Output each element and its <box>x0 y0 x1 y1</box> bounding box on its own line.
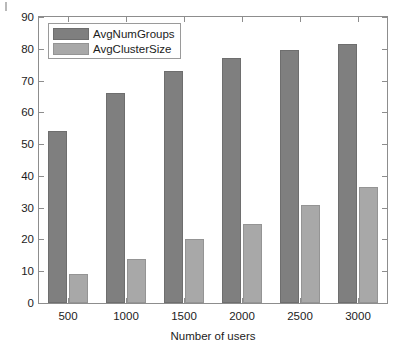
y-tick-right-10 <box>382 271 387 272</box>
chart-legend[interactable]: AvgNumGroups AvgClusterSize <box>48 23 181 59</box>
legend-item-avgnumgroups[interactable]: AvgNumGroups <box>53 27 175 40</box>
bar-1500-avgnumgroups <box>164 71 183 303</box>
y-tick-right-70 <box>382 81 387 82</box>
bar-2000-avgnumgroups <box>222 58 241 303</box>
x-tick-top-3000 <box>358 17 359 22</box>
y-tick-label-60: 60 <box>2 106 34 118</box>
y-tick-30 <box>39 208 44 209</box>
bar-2500-avgclustersize <box>301 205 320 304</box>
y-tick-0 <box>39 303 44 304</box>
x-tick-top-2000 <box>242 17 243 22</box>
y-tick-label-80: 80 <box>2 43 34 55</box>
x-tick-top-1500 <box>184 17 185 22</box>
bar-1000-avgnumgroups <box>106 93 125 303</box>
y-tick-60 <box>39 112 44 113</box>
x-axis-title: Number of users <box>38 330 388 342</box>
y-tick-label-70: 70 <box>2 75 34 87</box>
bar-3000-avgclustersize <box>359 187 378 303</box>
bar-1500-avgclustersize <box>185 239 204 303</box>
y-tick-70 <box>39 81 44 82</box>
y-tick-right-60 <box>382 112 387 113</box>
y-tick-label-30: 30 <box>2 202 34 214</box>
legend-swatch-icon-avgclustersize <box>53 43 89 55</box>
y-tick-label-40: 40 <box>2 170 34 182</box>
x-tick-label-1500: 1500 <box>154 310 214 322</box>
legend-label-avgclustersize: AvgClusterSize <box>93 43 171 55</box>
y-tick-10 <box>39 271 44 272</box>
y-tick-50 <box>39 144 44 145</box>
y-tick-right-80 <box>382 49 387 50</box>
y-tick-90 <box>39 17 44 18</box>
y-tick-80 <box>39 49 44 50</box>
x-tick-label-3000: 3000 <box>328 310 388 322</box>
x-tick-label-1000: 1000 <box>96 310 156 322</box>
bar-2000-avgclustersize <box>243 224 262 303</box>
x-tick-label-2500: 2500 <box>270 310 330 322</box>
y-tick-label-50: 50 <box>2 138 34 150</box>
x-tick-label-500: 500 <box>38 310 98 322</box>
y-tick-right-90 <box>382 17 387 18</box>
bar-1000-avgclustersize <box>127 259 146 303</box>
bar-500-avgclustersize <box>69 274 88 303</box>
y-tick-right-40 <box>382 176 387 177</box>
bar-3000-avgnumgroups <box>338 44 357 303</box>
y-tick-right-20 <box>382 239 387 240</box>
x-tick-top-500 <box>68 17 69 22</box>
legend-label-avgnumgroups: AvgNumGroups <box>93 28 175 40</box>
y-tick-right-0 <box>382 303 387 304</box>
y-tick-right-50 <box>382 144 387 145</box>
y-tick-label-90: 90 <box>2 11 34 23</box>
y-tick-label-20: 20 <box>2 233 34 245</box>
y-tick-label-0: 0 <box>2 297 34 309</box>
x-tick-top-2500 <box>300 17 301 22</box>
bar-chart-figure: 0102030405060708090 AvgNumGroups AvgClus… <box>0 0 404 358</box>
bar-500-avgnumgroups <box>48 131 67 303</box>
scan-artifact-mark <box>5 2 7 11</box>
legend-item-avgclustersize[interactable]: AvgClusterSize <box>53 42 175 55</box>
plot-axes-box: AvgNumGroups AvgClusterSize <box>38 16 388 304</box>
x-tick-label-2000: 2000 <box>212 310 272 322</box>
y-tick-20 <box>39 239 44 240</box>
legend-swatch-icon-avgnumgroups <box>53 28 89 40</box>
y-tick-right-30 <box>382 208 387 209</box>
plot-area: AvgNumGroups AvgClusterSize <box>39 17 387 303</box>
y-tick-label-10: 10 <box>2 265 34 277</box>
bar-2500-avgnumgroups <box>280 50 299 303</box>
y-tick-40 <box>39 176 44 177</box>
x-tick-top-1000 <box>126 17 127 22</box>
